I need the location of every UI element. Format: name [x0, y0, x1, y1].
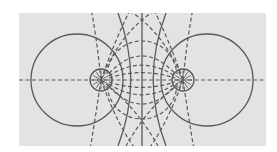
dipole-diagram	[0, 0, 277, 152]
